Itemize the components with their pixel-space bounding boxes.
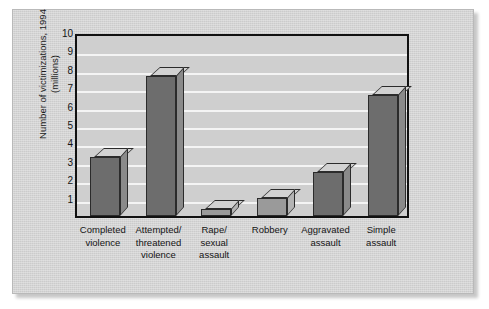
gridline <box>77 73 407 75</box>
bar-front-face <box>257 198 287 216</box>
y-axis-tick-label: 8 <box>49 66 73 76</box>
bar-top-face <box>261 189 301 198</box>
gridline <box>77 110 407 112</box>
y-axis-tick-label: 6 <box>49 103 73 113</box>
y-axis-tick-label: 10 <box>49 29 73 39</box>
bar-side-face <box>176 67 184 216</box>
gridline <box>77 128 407 130</box>
x-axis-category-label: Attempted/ threatened violence <box>131 224 187 262</box>
bar-front-face <box>146 76 176 216</box>
y-axis-tick-label: 4 <box>49 139 73 149</box>
bar-series <box>77 36 407 216</box>
plot-area <box>75 34 409 218</box>
y-axis-tick-label: 9 <box>49 47 73 57</box>
gridline <box>77 165 407 167</box>
bar <box>257 190 287 216</box>
bar-top-face <box>317 163 357 172</box>
bar <box>90 149 120 216</box>
bar-side-face <box>398 86 406 216</box>
gridlines <box>77 36 407 216</box>
bar-side-face <box>231 200 239 216</box>
bar <box>368 87 398 216</box>
gridline <box>77 91 407 93</box>
gridline <box>77 54 407 56</box>
y-axis-tick-label: 5 <box>49 121 73 131</box>
chart-figure-panel: Number of victimizations, 1994 (millions… <box>12 9 474 294</box>
bar-top-face <box>205 200 245 209</box>
y-axis-tick-label: 3 <box>49 158 73 168</box>
y-axis-tick-label: 1 <box>49 195 73 205</box>
x-axis-category-label: Simple assault <box>353 224 409 249</box>
bar-front-face <box>368 95 398 216</box>
bar <box>313 164 343 216</box>
bar-front-face <box>201 209 231 216</box>
x-axis-category-label: Rape/ sexual assault <box>186 224 242 262</box>
y-axis-tick-label: 7 <box>49 84 73 94</box>
bar-side-face <box>343 163 351 216</box>
x-axis-category-label: Completed violence <box>75 224 131 249</box>
bar-front-face <box>90 157 120 216</box>
x-axis-category-labels: Completed violenceAttempted/ threatened … <box>75 224 409 284</box>
x-axis-category-label: Aggravated assault <box>298 224 354 249</box>
bar-top-face <box>94 148 134 157</box>
y-axis-tick-label: 2 <box>49 176 73 186</box>
bar-top-face <box>150 67 190 76</box>
gridline <box>77 202 407 204</box>
bar-top-face <box>372 86 412 95</box>
x-axis-category-label: Robbery <box>242 224 298 237</box>
gridline <box>77 183 407 185</box>
bar <box>146 68 176 216</box>
bar-side-face <box>287 189 295 216</box>
bar-side-face <box>120 148 128 216</box>
bar <box>201 201 231 216</box>
bar-front-face <box>313 172 343 216</box>
gridline <box>77 146 407 148</box>
y-axis-tick-labels: 10987654321 <box>49 34 73 218</box>
